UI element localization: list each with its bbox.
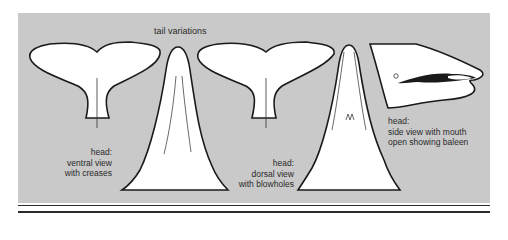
label-dorsal-line2: dorsal view (218, 169, 294, 180)
label-dorsal-line1: head: (218, 158, 294, 169)
label-dorsal-view: head: dorsal view with blowholes (218, 158, 294, 190)
label-ventral-line1: head: (40, 147, 112, 158)
tail-fluke-right (198, 42, 335, 128)
tail-fluke-left (30, 42, 160, 128)
label-side-line2: side view with mouth (388, 127, 498, 138)
head-side-view (370, 44, 483, 108)
title-tail-variations: tail variations (154, 26, 207, 37)
divider-thin (18, 205, 490, 206)
label-side-line1: head: (388, 116, 498, 127)
label-ventral-view: head: ventral view with creases (40, 147, 112, 179)
divider-thick (18, 211, 490, 213)
label-side-view: head: side view with mouth open showing … (388, 116, 498, 148)
label-ventral-line3: with creases (40, 168, 112, 179)
label-dorsal-line3: with blowholes (218, 179, 294, 190)
label-ventral-line2: ventral view (40, 158, 112, 169)
label-side-line3: open showing baleen (388, 137, 498, 148)
